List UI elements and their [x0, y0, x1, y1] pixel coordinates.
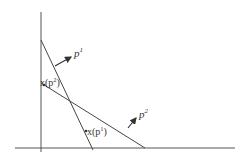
price-vector-p1-arrow-icon: [55, 57, 71, 66]
diagram-canvas: p1 p2 x(p2) x(p1): [0, 0, 249, 154]
label-p1: p1: [73, 46, 83, 59]
label-p2: p2: [138, 107, 149, 120]
budget-line-p2: [41, 83, 145, 148]
label-x-p2: x(p2): [40, 76, 60, 89]
label-x-p1: x(p1): [87, 125, 107, 138]
budget-line-p1: [41, 40, 93, 150]
price-vector-p2-arrow-icon: [128, 118, 136, 128]
